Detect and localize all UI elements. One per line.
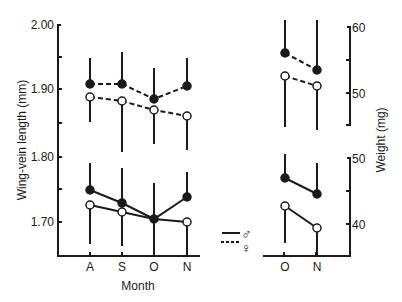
left-tick-label: 1.80 — [31, 150, 55, 164]
line-right-upper-female — [285, 76, 317, 86]
right-y-axis-title: Weight (mg) — [374, 107, 388, 172]
left-y-axis-title: Wing-vein length (mm) — [15, 80, 29, 201]
figure: ♂ ♀ 2.00 1.90 1.80 1.70 60 50 50 40 A S … — [0, 0, 402, 302]
line-right-lower-female — [285, 206, 317, 228]
legend-female-symbol: ♀ — [241, 240, 252, 256]
left-tick-label: 1.70 — [31, 215, 55, 229]
month-label: O — [280, 260, 289, 274]
x-axis-title: Month — [121, 279, 154, 293]
right-upper-axis — [346, 27, 350, 125]
month-label: N — [313, 260, 322, 274]
right-tick-label: 50 — [352, 152, 366, 166]
line-upper-male — [90, 84, 187, 99]
left-tick-label: 1.90 — [31, 82, 55, 96]
right-lower-axis — [263, 158, 350, 256]
right-tick-label: 60 — [352, 21, 366, 35]
legend — [221, 233, 240, 242]
line-upper-female — [90, 97, 187, 116]
right-tick-label: 40 — [352, 218, 366, 232]
month-label: O — [149, 260, 158, 274]
month-label: A — [86, 260, 94, 274]
month-label: N — [183, 260, 192, 274]
month-label: S — [118, 260, 126, 274]
line-right-lower-male — [285, 178, 317, 194]
line-right-upper-male — [285, 53, 317, 70]
right-tick-label: 50 — [352, 87, 366, 101]
left-tick-label: 2.00 — [31, 18, 55, 32]
